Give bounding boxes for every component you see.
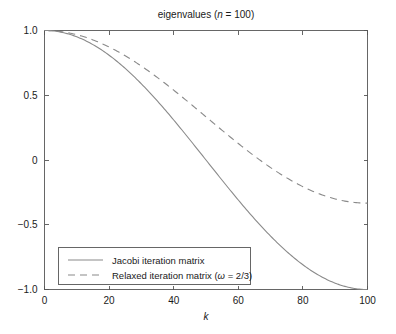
eigenvalues-chart: 0204060801001.00.50−0.5−1.0 eigenvalues … [0, 0, 396, 334]
chart-title-suffix: = 100) [223, 9, 254, 20]
series-line-relaxed [45, 31, 368, 204]
chart-title: eigenvalues (n = 100) [158, 9, 254, 20]
y-tick-label: −0.5 [18, 219, 38, 230]
y-tick-label: 1.0 [24, 25, 38, 36]
y-tick-label: 0.5 [24, 90, 38, 101]
x-tick-label: 60 [233, 295, 245, 306]
y-tick-label: 0 [32, 155, 38, 166]
legend-label-relaxed-prefix: Relaxed iteration matrix ( [112, 270, 218, 281]
y-tick-label: −1.0 [18, 284, 38, 295]
legend-label-relaxed: Relaxed iteration matrix (ω = 2/3) [112, 270, 252, 281]
x-tick-label: 80 [297, 295, 309, 306]
x-axis-label: k [204, 311, 210, 322]
legend-label-jacobi: Jacobi iteration matrix [112, 255, 205, 266]
x-tick-label: 20 [104, 295, 116, 306]
x-tick-label: 100 [359, 295, 376, 306]
x-tick-label: 40 [168, 295, 180, 306]
chart-title-prefix: eigenvalues ( [158, 9, 218, 20]
legend: Jacobi iteration matrix Relaxed iteratio… [59, 248, 253, 285]
x-tick-label: 0 [42, 295, 48, 306]
legend-label-relaxed-suffix: = 2/3) [225, 270, 252, 281]
